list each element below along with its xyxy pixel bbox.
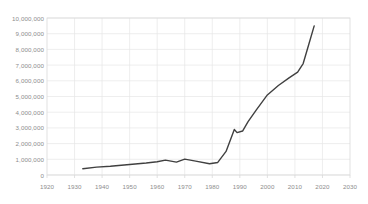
y-tick-label: 0 — [40, 172, 44, 179]
line-chart: 01,000,0002,000,0003,000,0004,000,0005,0… — [0, 0, 368, 204]
y-tick-label: 2,000,000 — [16, 140, 44, 147]
x-tick-label: 2000 — [253, 183, 281, 190]
x-tick-label: 1940 — [88, 183, 116, 190]
x-tick-label: 1950 — [116, 183, 144, 190]
y-tick-label: 5,000,000 — [16, 93, 44, 100]
x-tick-label: 1980 — [198, 183, 226, 190]
y-tick-label: 4,000,000 — [16, 109, 44, 116]
data-series-layer — [83, 26, 314, 169]
axis-tick-marks — [47, 175, 350, 178]
data-line-series-1 — [83, 26, 314, 169]
y-tick-label: 8,000,000 — [16, 46, 44, 53]
x-tick-label: 1990 — [226, 183, 254, 190]
chart-plot-area — [0, 0, 368, 204]
x-tick-label: 2030 — [336, 183, 364, 190]
x-tick-label: 1920 — [33, 183, 61, 190]
x-tick-label: 1960 — [143, 183, 171, 190]
y-tick-label: 6,000,000 — [16, 77, 44, 84]
y-tick-label: 10,000,000 — [12, 15, 44, 22]
x-tick-label: 1930 — [61, 183, 89, 190]
y-tick-label: 1,000,000 — [16, 156, 44, 163]
y-tick-label: 3,000,000 — [16, 124, 44, 131]
x-tick-label: 2020 — [308, 183, 336, 190]
y-tick-label: 7,000,000 — [16, 62, 44, 69]
y-tick-label: 9,000,000 — [16, 30, 44, 37]
x-tick-label: 2010 — [281, 183, 309, 190]
horizontal-gridlines — [47, 18, 350, 175]
x-tick-label: 1970 — [171, 183, 199, 190]
